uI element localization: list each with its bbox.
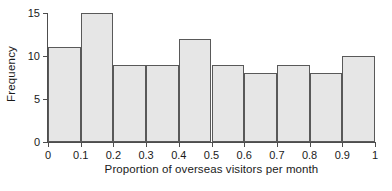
x-tick-label: 1 [355,150,392,161]
x-tick-mark [179,143,180,147]
x-tick-mark [146,143,147,147]
x-tick-mark [375,143,376,147]
x-tick-mark [48,143,49,147]
histogram-bar [179,39,212,142]
x-tick-mark [310,143,311,147]
plot-area: 051015 00.10.20.30.40.50.60.70.80.91 [48,13,375,142]
y-tick-label: 15 [10,8,40,19]
y-tick-label: 0 [10,137,40,148]
x-tick-mark [244,143,245,147]
histogram-bar [81,13,114,142]
histogram-figure: Frequency 051015 00.10.20.30.40.50.60.70… [0,0,392,191]
histogram-bar [113,65,146,142]
x-tick-mark [212,143,213,147]
histogram-bar [146,65,179,142]
x-axis-title: Proportion of overseas visitors per mont… [48,163,375,175]
y-tick-mark [43,56,47,57]
y-tick-mark [43,99,47,100]
y-tick-mark [43,13,47,14]
x-tick-mark [81,143,82,147]
x-tick-mark [277,143,278,147]
x-tick-mark [113,143,114,147]
histogram-bar [310,73,343,142]
histogram-bar [244,73,277,142]
histogram-bar [212,65,245,142]
y-tick-label: 10 [10,51,40,62]
x-tick-mark [342,143,343,147]
y-axis-title: Frequency [0,3,22,145]
histogram-bar [342,56,375,142]
histogram-bar [277,65,310,142]
y-tick-mark [43,142,47,143]
histogram-bar [48,47,81,142]
y-tick-label: 5 [10,94,40,105]
